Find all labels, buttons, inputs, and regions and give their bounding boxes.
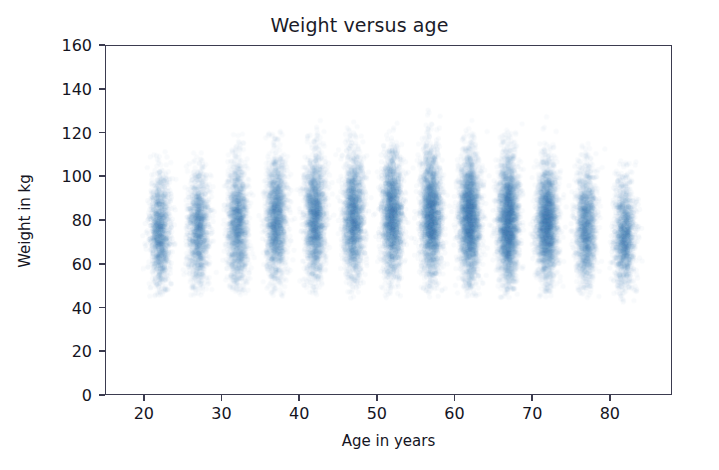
x-tick-label: 60 bbox=[425, 404, 485, 423]
x-tick-label: 40 bbox=[269, 404, 329, 423]
y-tick-label: 0 bbox=[36, 386, 92, 405]
x-tick-mark bbox=[298, 395, 300, 401]
y-tick-label: 60 bbox=[36, 255, 92, 274]
y-tick-label-wrap: 140 bbox=[24, 80, 92, 98]
x-tick-label: 20 bbox=[114, 404, 174, 423]
y-tick-mark bbox=[99, 175, 105, 177]
x-tick-label-wrap: 40 bbox=[269, 404, 329, 426]
x-tick-label: 50 bbox=[347, 404, 407, 423]
y-tick-label-wrap: 120 bbox=[24, 124, 92, 142]
y-axis-title: Weight in kg bbox=[16, 46, 34, 396]
y-tick-label-wrap: 60 bbox=[24, 255, 92, 273]
x-tick-mark bbox=[143, 395, 145, 401]
y-tick-mark bbox=[99, 394, 105, 396]
y-tick-label: 120 bbox=[36, 124, 92, 143]
x-axis-title: Age in years bbox=[105, 432, 672, 450]
x-tick-mark bbox=[531, 395, 533, 401]
y-tick-label-wrap: 20 bbox=[24, 342, 92, 360]
scatter-plot-canvas bbox=[106, 46, 671, 394]
x-tick-label-wrap: 20 bbox=[114, 404, 174, 426]
x-tick-label-wrap: 70 bbox=[502, 404, 562, 426]
x-tick-mark bbox=[609, 395, 611, 401]
plot-area bbox=[105, 45, 672, 395]
x-tick-label: 80 bbox=[580, 404, 640, 423]
y-tick-mark bbox=[99, 219, 105, 221]
y-tick-label-wrap: 80 bbox=[24, 211, 92, 229]
y-tick-label-wrap: 100 bbox=[24, 167, 92, 185]
x-tick-mark bbox=[376, 395, 378, 401]
y-tick-mark bbox=[99, 350, 105, 352]
x-tick-label: 70 bbox=[502, 404, 562, 423]
y-tick-label-wrap: 160 bbox=[24, 36, 92, 54]
x-tick-label-wrap: 60 bbox=[425, 404, 485, 426]
x-tick-mark bbox=[454, 395, 456, 401]
x-tick-label-wrap: 30 bbox=[192, 404, 252, 426]
x-tick-mark bbox=[221, 395, 223, 401]
chart-figure: Weight versus age 020406080100120140160 … bbox=[0, 0, 719, 470]
y-tick-label: 100 bbox=[36, 167, 92, 186]
y-tick-mark bbox=[99, 132, 105, 134]
y-tick-label: 140 bbox=[36, 80, 92, 99]
x-tick-label-wrap: 80 bbox=[580, 404, 640, 426]
y-tick-mark bbox=[99, 88, 105, 90]
y-tick-mark bbox=[99, 263, 105, 265]
y-tick-mark bbox=[99, 44, 105, 46]
x-tick-label: 30 bbox=[192, 404, 252, 423]
y-tick-label: 20 bbox=[36, 342, 92, 361]
y-tick-mark bbox=[99, 307, 105, 309]
y-tick-label: 40 bbox=[36, 299, 92, 318]
y-tick-label: 80 bbox=[36, 211, 92, 230]
y-tick-label-wrap: 40 bbox=[24, 299, 92, 317]
y-tick-label-wrap: 0 bbox=[24, 386, 92, 404]
chart-title: Weight versus age bbox=[0, 14, 719, 36]
y-tick-label: 160 bbox=[36, 36, 92, 55]
x-tick-label-wrap: 50 bbox=[347, 404, 407, 426]
